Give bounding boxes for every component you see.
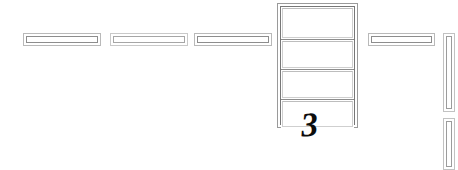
wall-segment-2-core (113, 36, 185, 43)
room-cell-1 (281, 7, 354, 40)
wall-segment-3-core (197, 36, 269, 43)
floor-plan-canvas: 3 (0, 0, 458, 170)
vertical-wall-2-core (446, 121, 452, 167)
room-cell-1-liner (282, 8, 353, 38)
wall-segment-4-core (371, 36, 432, 43)
room-cell-2-liner (282, 41, 353, 68)
room-frame-inner (280, 6, 355, 125)
room-frame (277, 3, 358, 128)
room-number-label: 3 (300, 107, 319, 142)
wall-segment-1-core (26, 36, 98, 43)
wall-segment-2 (110, 33, 188, 46)
room-cell-3-liner (282, 71, 353, 98)
room-cell-3 (281, 70, 354, 100)
wall-segment-3 (194, 33, 272, 46)
wall-segment-4 (368, 33, 435, 46)
wall-segment-1 (23, 33, 101, 46)
vertical-wall-1-core (446, 36, 452, 109)
room-cell-2 (281, 40, 354, 70)
vertical-wall-2 (443, 118, 455, 170)
vertical-wall-1 (443, 33, 455, 112)
